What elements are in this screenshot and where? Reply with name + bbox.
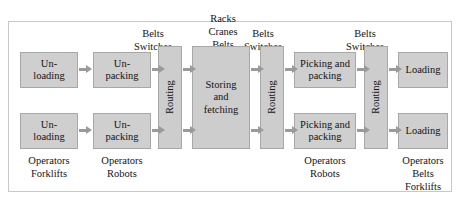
node-unpacking-bottom[interactable]: Un- packing [93, 113, 151, 149]
node-routing-3-label: Routing [370, 81, 382, 115]
node-loading-top[interactable]: Loading [398, 52, 448, 88]
arrow-routing1-to-storing-bottom [183, 126, 196, 135]
arrow-storing-to-routing2-bottom [251, 126, 264, 135]
node-routing-1-label: Routing [164, 81, 176, 115]
arrow-picking-to-routing3-top [357, 65, 370, 74]
node-unloading-top[interactable]: Un- loading [20, 52, 78, 88]
arrow-unloading-to-unpacking-top [79, 65, 92, 74]
bottom-label-operators-forklifts: Operators Forklifts [14, 154, 84, 180]
node-picking-and-packing-top[interactable]: Picking and packing [294, 52, 356, 88]
node-unpacking-top[interactable]: Un- packing [93, 52, 151, 88]
process-flow-diagram: Belts Switches Racks Cranes Belts Belts … [0, 0, 460, 205]
bottom-label-operators-belts-forklifts: Operators Belts Forklifts [388, 154, 458, 193]
arrow-picking-to-routing3-bottom [357, 126, 370, 135]
arrow-routing2-to-picking-bottom [285, 126, 298, 135]
node-picking-and-packing-bottom[interactable]: Picking and packing [294, 113, 356, 149]
arrow-storing-to-routing2-top [251, 65, 264, 74]
arrow-routing2-to-picking-top [285, 65, 298, 74]
bottom-label-operators-robots-1: Operators Robots [87, 154, 157, 180]
arrow-routing3-to-loading-bottom [389, 126, 402, 135]
arrow-routing1-to-storing-top [183, 65, 196, 74]
node-loading-bottom[interactable]: Loading [398, 113, 448, 149]
arrow-unpacking-to-routing1-top [152, 65, 165, 74]
bottom-label-operators-robots-2: Operators Robots [290, 154, 360, 180]
arrow-routing3-to-loading-top [389, 65, 402, 74]
node-routing-2-label: Routing [266, 81, 278, 115]
node-storing-and-fetching[interactable]: Storing and fetching [192, 46, 250, 149]
arrow-unpacking-to-routing1-bottom [152, 126, 165, 135]
node-unloading-bottom[interactable]: Un- loading [20, 113, 78, 149]
arrow-unloading-to-unpacking-bottom [79, 126, 92, 135]
